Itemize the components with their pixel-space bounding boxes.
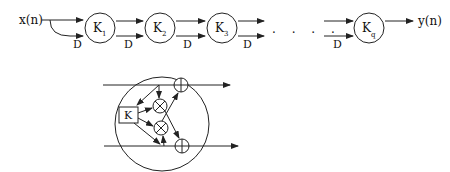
delay-label-5: D: [333, 38, 342, 51]
lower-multiplier-icon: [154, 121, 168, 135]
output-label: y(n): [417, 14, 442, 28]
ellipsis: . . . .: [272, 22, 341, 36]
coefficient-label: K: [124, 109, 133, 122]
svg-text:2: 2: [162, 30, 166, 38]
svg-text:3: 3: [224, 30, 228, 38]
svg-text:q: q: [371, 31, 376, 39]
lattice-filter-diagram: x(n) D K 1 D K 2 D K 3 D . . . . D K q y…: [0, 0, 450, 172]
stage-k2: K 2: [145, 13, 175, 43]
input-label: x(n): [19, 13, 43, 27]
lower-adder-icon: [175, 139, 189, 153]
upper-adder-icon: [174, 78, 188, 92]
svg-text:1: 1: [102, 30, 106, 38]
upper-multiplier-icon: [153, 99, 167, 113]
delay-label-1: D: [73, 38, 82, 51]
stage-detail: K: [103, 77, 238, 171]
delay-label-4: D: [243, 38, 252, 51]
stage-k3: K 3: [207, 13, 237, 43]
delay-label-3: D: [183, 38, 192, 51]
input-lower-arrow: [50, 20, 83, 36]
delay-label-2: D: [124, 38, 133, 51]
stage-kq: K q: [354, 13, 384, 43]
stage-k1: K 1: [85, 13, 115, 43]
